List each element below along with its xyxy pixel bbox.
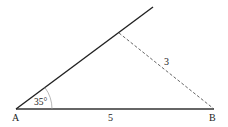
angle-a-label: 35°	[34, 97, 48, 107]
vertex-a-label: A	[12, 112, 20, 123]
side-ab-label: 5	[108, 112, 113, 123]
triangle-diagram: A B 5 3 35°	[0, 0, 228, 127]
vertex-b-label: B	[209, 112, 216, 123]
ray-from-a	[16, 7, 153, 109]
side-bc-label: 3	[164, 56, 169, 67]
dashed-segment-bc	[119, 33, 214, 109]
